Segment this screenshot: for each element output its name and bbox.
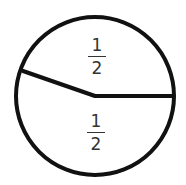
fraction-denominator: 2 [84, 135, 108, 153]
fraction-denominator: 2 [85, 59, 109, 77]
fraction-numerator: 1 [84, 112, 108, 130]
fraction-bar [88, 56, 106, 57]
bottom-region-fraction: 1 2 [84, 112, 108, 153]
top-region-fraction: 1 2 [85, 36, 109, 77]
fraction-numerator: 1 [85, 36, 109, 54]
fraction-circle [0, 0, 186, 185]
fraction-bar [87, 132, 105, 133]
